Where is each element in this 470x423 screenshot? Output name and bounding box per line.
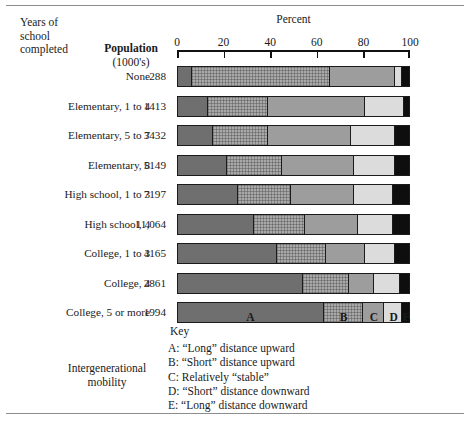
bar-segment-D — [358, 215, 393, 234]
bar-segment-E — [395, 244, 409, 263]
bar-segment-C — [326, 244, 365, 263]
percent-axis — [177, 50, 410, 59]
bar-row: Elementary, 1 to 41413 — [0, 96, 470, 118]
segment-letter-E: E — [396, 311, 418, 323]
intergenerational-mobility-label: Intergenerational mobility — [48, 362, 166, 389]
row-population-value: 3432 — [104, 129, 166, 141]
axis-tick-40 — [270, 50, 272, 58]
bar-segment-B — [254, 215, 305, 234]
stacked-bar — [177, 66, 410, 87]
segment-letter-B: B — [333, 311, 355, 323]
bar-segment-B — [213, 126, 268, 145]
axis-tick-label-80: 80 — [346, 36, 380, 48]
bar-segment-A — [178, 215, 254, 234]
bar-segment-B — [303, 274, 349, 293]
bar-segment-D — [354, 185, 393, 204]
years-heading-line-1: Years of — [20, 16, 130, 30]
top-divider-rule — [6, 5, 464, 6]
bar-segment-E — [400, 274, 409, 293]
stacked-bar — [177, 214, 410, 235]
stacked-bar — [177, 184, 410, 205]
key-item: D: “Short” distance downward — [168, 384, 309, 398]
percent-axis-title: Percent — [177, 13, 410, 25]
bar-row: Elementary, 85149 — [0, 155, 470, 177]
bar-row: High school, 411,064 — [0, 214, 470, 236]
bar-segment-C — [305, 215, 358, 234]
key-item: A: “Long” distance upward — [168, 341, 309, 355]
axis-tick-0 — [177, 50, 179, 58]
axis-tick-100 — [408, 50, 410, 58]
bar-segment-C — [268, 126, 351, 145]
axis-tick-label-60: 60 — [300, 36, 334, 48]
bar-segment-A — [178, 67, 192, 86]
bar-segment-B — [192, 67, 331, 86]
bar-row: None288 — [0, 66, 470, 88]
axis-tick-label-20: 20 — [207, 36, 241, 48]
bar-segment-C — [268, 97, 365, 116]
bar-segment-B — [227, 156, 282, 175]
years-heading-line-2: school — [20, 30, 130, 44]
axis-tick-label-0: 0 — [160, 36, 194, 48]
bar-segment-B — [208, 97, 268, 116]
bar-segment-D — [351, 126, 395, 145]
bar-segment-E — [395, 126, 409, 145]
bar-segment-E — [393, 215, 409, 234]
segment-letter-A: A — [239, 311, 261, 323]
key-item: B: “Short” distance upward — [168, 355, 309, 369]
row-population-value: 1994 — [104, 306, 166, 318]
row-population-value: 5149 — [104, 159, 166, 171]
bar-segment-E — [402, 67, 409, 86]
key-item: E: “Long” distance downward — [168, 398, 309, 412]
row-population-value: 11,064 — [104, 218, 166, 230]
population-heading-main: Population — [104, 42, 158, 54]
bar-segment-D — [374, 274, 399, 293]
bar-segment-C — [330, 67, 395, 86]
bar-row: Elementary, 5 to 73432 — [0, 125, 470, 147]
row-population-value: 288 — [104, 70, 166, 82]
bar-segment-C — [291, 185, 353, 204]
axis-tick-label-100: 100 — [393, 36, 427, 48]
bar-segment-D — [365, 97, 404, 116]
stacked-bar — [177, 243, 410, 264]
stacked-bar — [177, 273, 410, 294]
bar-segment-A — [178, 156, 227, 175]
bar-segment-E — [404, 97, 409, 116]
bar-segment-D — [395, 67, 402, 86]
stacked-bar — [177, 125, 410, 146]
mobility-label-line-2: mobility — [48, 376, 166, 390]
bar-row: College, 1 to 34165 — [0, 243, 470, 265]
education-mobility-chart: Years of school completed Population (10… — [0, 0, 470, 423]
axis-tick-60 — [317, 50, 319, 58]
population-heading: Population (1000's) — [92, 42, 170, 69]
segment-letter-C: C — [363, 311, 385, 323]
key-item: C: Relatively “stable” — [168, 370, 309, 384]
row-population-value: 7197 — [104, 188, 166, 200]
bar-segment-C — [282, 156, 354, 175]
bar-segment-D — [365, 244, 395, 263]
bar-segment-A — [178, 126, 213, 145]
bar-segment-A — [178, 97, 208, 116]
row-population-value: 4165 — [104, 247, 166, 259]
bottom-divider-rule — [6, 413, 464, 414]
bar-segment-D — [354, 156, 396, 175]
axis-line — [177, 50, 410, 52]
axis-tick-80 — [363, 50, 365, 58]
bar-segment-A — [178, 244, 277, 263]
row-population-value: 2861 — [104, 277, 166, 289]
bar-segment-C — [349, 274, 374, 293]
stacked-bar — [177, 155, 410, 176]
bar-segment-E — [393, 185, 409, 204]
bar-row: High school, 1 to 37197 — [0, 184, 470, 206]
row-population-value: 1413 — [104, 100, 166, 112]
key-items: A: “Long” distance upwardB: “Short” dist… — [168, 341, 309, 412]
axis-tick-label-40: 40 — [253, 36, 287, 48]
axis-tick-20 — [224, 50, 226, 58]
bar-segment-B — [238, 185, 291, 204]
bar-segment-B — [277, 244, 326, 263]
mobility-label-line-1: Intergenerational — [48, 362, 166, 376]
bar-segment-A — [178, 274, 303, 293]
stacked-bar — [177, 96, 410, 117]
key-title: Key — [170, 325, 189, 337]
bar-segment-E — [395, 156, 409, 175]
bar-row: College, 42861 — [0, 273, 470, 295]
